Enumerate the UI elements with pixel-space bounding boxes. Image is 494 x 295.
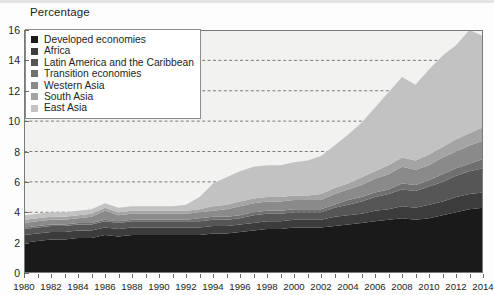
x-tick-mark (38, 274, 39, 278)
legend-swatch-icon (31, 70, 38, 77)
x-tick-label: 1988 (121, 281, 142, 292)
x-tick-mark (294, 274, 295, 278)
y-tick-mark (24, 152, 29, 153)
y-tick-mark (24, 212, 29, 213)
y-tick-label: 16 (8, 24, 20, 36)
y-tick-mark (24, 243, 29, 244)
y-tick-mark (24, 60, 29, 61)
x-tick-label: 2012 (445, 281, 466, 292)
x-tick-label: 1994 (202, 281, 223, 292)
x-tick-label: 1998 (256, 281, 277, 292)
x-tick-mark (308, 274, 309, 278)
x-tick-mark (389, 274, 390, 278)
x-tick-mark (105, 274, 106, 278)
legend-item[interactable]: Transition economies (31, 68, 194, 79)
legend-item-label: East Asia (44, 102, 87, 113)
x-tick-label: 1986 (94, 281, 115, 292)
y-axis-title: Percentage (30, 6, 90, 18)
x-tick-mark (483, 274, 484, 278)
x-tick-mark (456, 274, 457, 278)
x-tick-mark (443, 274, 444, 278)
legend-item[interactable]: Western Asia (31, 80, 194, 91)
y-tick-mark (24, 273, 29, 274)
legend-item[interactable]: Developed economies (31, 34, 194, 45)
legend-swatch-icon (31, 59, 38, 66)
x-tick-label: 2008 (391, 281, 412, 292)
x-tick-mark (146, 274, 147, 278)
legend-item-label: Developed economies (44, 34, 146, 45)
legend-swatch-icon (31, 93, 38, 100)
legend-item-label: Africa (44, 45, 70, 56)
y-tick-label: 2 (14, 237, 20, 249)
legend-item-label: Transition economies (44, 68, 141, 79)
x-tick-mark (348, 274, 349, 278)
x-tick-mark (119, 274, 120, 278)
legend-item[interactable]: East Asia (31, 102, 194, 113)
legend-item[interactable]: South Asia (31, 91, 194, 102)
legend-item-label: South Asia (44, 91, 93, 102)
x-tick-mark (24, 274, 25, 278)
legend-swatch-icon (31, 82, 38, 89)
x-tick-label: 2014 (472, 281, 493, 292)
y-axis-tick-labels: 0246810121416 (0, 30, 20, 273)
x-tick-mark (267, 274, 268, 278)
y-tick-label: 14 (8, 54, 20, 66)
x-tick-mark (375, 274, 376, 278)
x-tick-mark (78, 274, 79, 278)
x-tick-label: 2004 (337, 281, 358, 292)
x-tick-mark (416, 274, 417, 278)
x-tick-label: 1982 (40, 281, 61, 292)
legend-item[interactable]: Latin America and the Caribbean (31, 57, 194, 68)
x-tick-mark (321, 274, 322, 278)
x-tick-label: 1992 (175, 281, 196, 292)
x-axis-tick-labels: 1980198219841986198819901992199419961998… (24, 274, 483, 295)
x-tick-label: 2002 (310, 281, 331, 292)
x-tick-mark (429, 274, 430, 278)
y-tick-label: 4 (14, 206, 20, 218)
x-tick-mark (213, 274, 214, 278)
x-tick-mark (51, 274, 52, 278)
x-tick-label: 1984 (67, 281, 88, 292)
y-tick-label: 8 (14, 146, 20, 158)
y-tick-label: 0 (14, 267, 20, 279)
x-tick-label: 1996 (229, 281, 250, 292)
chart-figure: Percentage 0246810121416 198019821984198… (0, 0, 494, 295)
x-tick-mark (240, 274, 241, 278)
x-tick-mark (186, 274, 187, 278)
x-tick-mark (65, 274, 66, 278)
legend-item-label: Western Asia (44, 80, 104, 91)
legend-swatch-icon (31, 105, 38, 112)
top-divider (0, 0, 494, 3)
x-tick-mark (173, 274, 174, 278)
x-tick-mark (470, 274, 471, 278)
x-tick-mark (281, 274, 282, 278)
legend-swatch-icon (31, 36, 38, 43)
legend-item[interactable]: Africa (31, 45, 194, 56)
x-tick-label: 1990 (148, 281, 169, 292)
x-tick-mark (402, 274, 403, 278)
x-tick-mark (335, 274, 336, 278)
x-tick-mark (254, 274, 255, 278)
x-tick-label: 1980 (13, 281, 34, 292)
x-tick-mark (92, 274, 93, 278)
x-tick-mark (200, 274, 201, 278)
legend-item-label: Latin America and the Caribbean (44, 57, 194, 68)
y-tick-mark (24, 121, 29, 122)
x-tick-mark (132, 274, 133, 278)
y-tick-mark (24, 182, 29, 183)
x-tick-mark (159, 274, 160, 278)
y-tick-label: 6 (14, 176, 20, 188)
x-tick-label: 2000 (283, 281, 304, 292)
y-tick-mark (24, 30, 29, 31)
chart-legend: Developed economiesAfricaLatin America a… (25, 29, 201, 119)
x-tick-label: 2010 (418, 281, 439, 292)
y-tick-label: 10 (8, 115, 20, 127)
y-tick-mark (24, 91, 29, 92)
legend-swatch-icon (31, 48, 38, 55)
x-tick-mark (227, 274, 228, 278)
y-tick-label: 12 (8, 85, 20, 97)
x-tick-mark (362, 274, 363, 278)
x-tick-label: 2006 (364, 281, 385, 292)
